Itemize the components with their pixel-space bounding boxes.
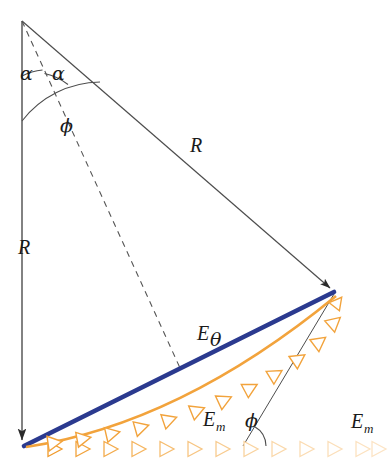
label-e-theta-subscript: θ <box>210 328 222 350</box>
chain-arrowhead <box>328 442 342 457</box>
chain-arrowhead <box>266 364 286 384</box>
label-alpha-right: α <box>52 62 65 84</box>
chain-arrowhead <box>132 442 146 457</box>
resultant-vector-e-theta <box>24 292 334 446</box>
label-e-theta-symbol: E <box>196 322 209 344</box>
element-chain-diagonal <box>26 293 347 451</box>
label-radius-left: R <box>17 236 30 258</box>
chain-arrowhead <box>300 442 314 457</box>
label-alpha-left: α <box>20 62 33 84</box>
label-e-m-diagonal-subscript: m <box>216 419 225 434</box>
label-e-m-diagonal-symbol: E <box>202 408 215 430</box>
chain-arrowhead <box>241 378 260 398</box>
chain-arrowhead <box>160 442 174 457</box>
slant-radius-line <box>22 21 330 288</box>
chain-arrowhead <box>133 418 151 436</box>
vector-diagram: R R α α ϕ ϕ E θ E m E m <box>0 0 390 472</box>
chain-arrowhead <box>161 410 179 429</box>
label-e-m-horizontal-subscript: m <box>364 421 373 436</box>
chain-arrowhead <box>356 442 370 457</box>
chain-arrowhead <box>272 442 286 457</box>
chain-arrowhead <box>310 331 330 351</box>
chain-arrowhead <box>372 442 386 457</box>
bisector-dashed-line <box>22 21 180 368</box>
chain-arrowhead <box>325 312 345 333</box>
label-e-m-horizontal-symbol: E <box>350 410 363 432</box>
label-phi-apex: ϕ <box>60 114 73 136</box>
chain-arrowhead <box>329 293 347 310</box>
figure-root: R R α α ϕ ϕ E θ E m E m <box>0 0 390 472</box>
label-e-m-horizontal: E m <box>350 410 373 436</box>
chain-arrowhead <box>188 442 202 457</box>
chain-arrowhead <box>244 442 258 457</box>
chain-arrowhead <box>104 442 118 457</box>
label-radius-right: R <box>189 134 202 156</box>
label-e-m-diagonal: E m <box>202 408 225 434</box>
chain-arrowhead <box>216 442 230 457</box>
label-phi-base: ϕ <box>245 409 258 431</box>
label-e-theta: E θ <box>196 322 222 350</box>
chain-arrowhead <box>215 390 234 410</box>
